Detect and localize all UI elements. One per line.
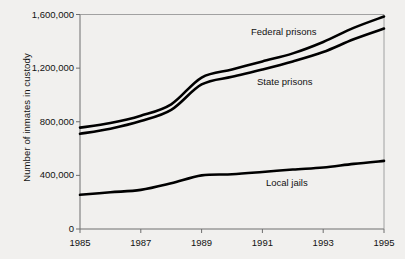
x-tick-label: 1991 — [240, 237, 284, 248]
y-tick-label: 800,000 — [12, 116, 74, 127]
series-line-state-prisons — [80, 29, 384, 134]
x-tick-label: 1987 — [119, 237, 163, 248]
chart-figure: Number of inmates in custody 0400,000800… — [0, 0, 405, 259]
data-series-group — [80, 17, 384, 195]
y-tick-label: 400,000 — [12, 169, 74, 180]
series-line-federal-prisons — [80, 17, 384, 128]
line-chart-canvas — [0, 0, 405, 259]
y-tick-label: 0 — [12, 223, 74, 234]
x-tick-label: 1993 — [301, 237, 345, 248]
x-tick-label: 1985 — [58, 237, 102, 248]
series-line-local-jails — [80, 161, 384, 195]
x-axis-ticks — [80, 229, 384, 233]
series-label-state-prisons: State prisons — [257, 76, 312, 87]
y-tick-label: 1,200,000 — [12, 62, 74, 73]
x-tick-label: 1995 — [362, 237, 405, 248]
x-tick-label: 1989 — [180, 237, 224, 248]
series-label-federal-prisons: Federal prisons — [251, 26, 316, 37]
y-tick-label: 1,600,000 — [12, 9, 74, 20]
series-label-local-jails: Local jails — [266, 177, 308, 188]
y-axis-ticks — [76, 15, 80, 230]
